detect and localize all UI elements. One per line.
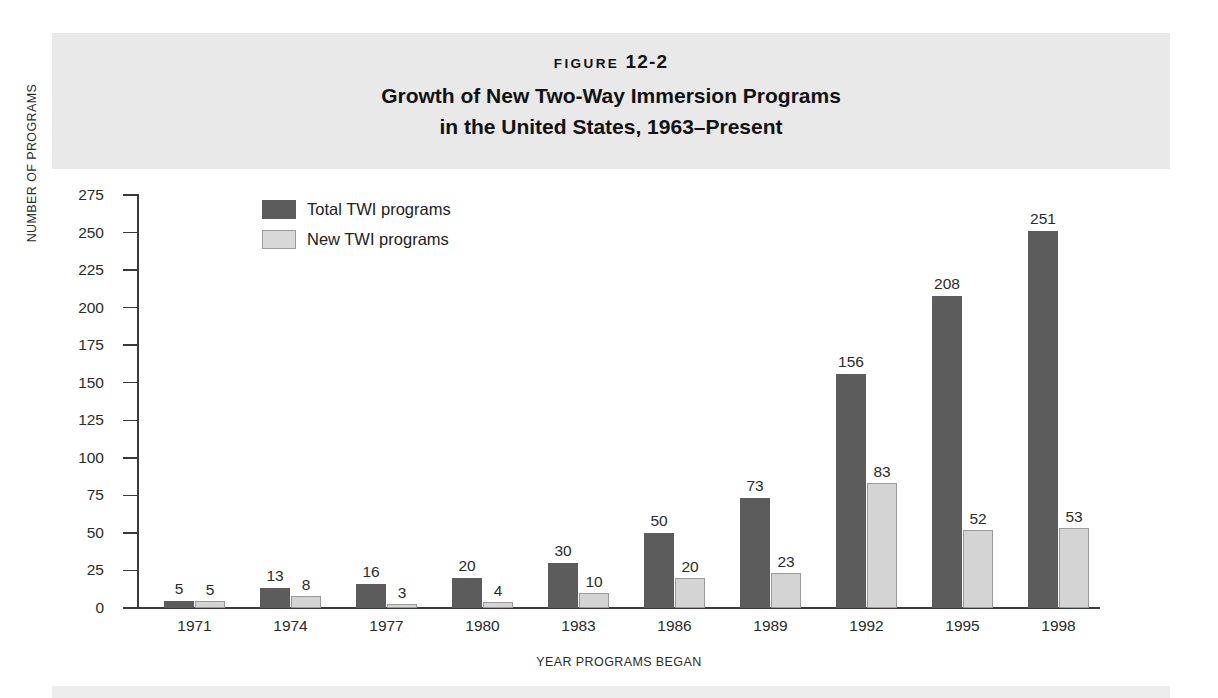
y-axis-tick-label: 200 [78, 299, 104, 317]
y-axis-tick-label: 75 [87, 486, 104, 504]
bar-value-label: 251 [1030, 210, 1056, 228]
plot-area: 55138163204301050207323156832085225153 [138, 195, 1100, 608]
bar-new[interactable]: 52 [963, 530, 993, 608]
bar-value-label: 13 [266, 567, 283, 585]
figure-footer-band [52, 686, 1170, 698]
bar-new[interactable]: 3 [387, 604, 417, 609]
y-axis-tick-label: 250 [78, 224, 104, 242]
bar-value-label: 83 [873, 463, 890, 481]
y-axis-tick-label: 225 [78, 261, 104, 279]
x-axis-tick-label: 1971 [177, 617, 211, 635]
x-axis-tick-labels: 1971197419771980198319861989199219951998 [138, 617, 1100, 643]
bar-value-label: 4 [494, 582, 503, 600]
legend-item-total: Total TWI programs [262, 196, 522, 222]
x-axis-tick-label: 1989 [753, 617, 787, 635]
bar-group: 55 [164, 195, 225, 608]
bar-total[interactable]: 251 [1028, 231, 1058, 608]
bar-group: 138 [260, 195, 321, 608]
y-axis-tick-label: 125 [78, 411, 104, 429]
bar-value-label: 52 [969, 510, 986, 528]
bar-value-label: 5 [175, 580, 184, 598]
bar-total[interactable]: 20 [452, 578, 482, 608]
bar-total[interactable]: 156 [836, 374, 866, 608]
x-axis-tick-label: 1995 [945, 617, 979, 635]
x-axis-tick-label: 1974 [273, 617, 307, 635]
y-axis-tick [123, 457, 137, 459]
y-axis-tick [123, 194, 137, 196]
y-axis-tick-labels: 0255075100125150175200225250275 [0, 195, 122, 608]
bar-total[interactable]: 30 [548, 563, 578, 608]
y-axis-tick [123, 307, 137, 309]
x-axis-tick-label: 1998 [1041, 617, 1075, 635]
bar-total[interactable]: 208 [932, 296, 962, 608]
bar-value-label: 208 [934, 275, 960, 293]
x-axis-tick-label: 1980 [465, 617, 499, 635]
chart-legend: Total TWI programs New TWI programs [262, 196, 522, 256]
bar-value-label: 10 [585, 573, 602, 591]
bar-value-label: 23 [777, 553, 794, 571]
bar-new[interactable]: 20 [675, 578, 705, 608]
y-axis-tick [123, 232, 137, 234]
bar-new[interactable]: 83 [867, 483, 897, 608]
bar-value-label: 16 [362, 563, 379, 581]
bar-group: 25153 [1028, 195, 1089, 608]
bar-new[interactable]: 53 [1059, 528, 1089, 608]
bar-group: 204 [452, 195, 513, 608]
y-axis-tick [123, 382, 137, 384]
bar-group: 15683 [836, 195, 897, 608]
bar-total[interactable]: 5 [164, 601, 194, 609]
y-axis-title: NUMBER OF PROGRAMS [25, 13, 39, 313]
y-axis-tick-label: 0 [95, 599, 104, 617]
x-axis-title: YEAR PROGRAMS BEGAN [138, 655, 1100, 669]
bar-group: 3010 [548, 195, 609, 608]
bar-new[interactable]: 23 [771, 573, 801, 608]
y-axis-tick [123, 495, 137, 497]
legend-swatch-total-icon [262, 200, 296, 219]
x-axis-tick-label: 1977 [369, 617, 403, 635]
bar-value-label: 5 [206, 581, 215, 599]
y-axis-tick-label: 25 [87, 561, 104, 579]
x-axis-tick-label: 1986 [657, 617, 691, 635]
y-axis-tick [123, 269, 137, 271]
y-axis-tick-label: 100 [78, 449, 104, 467]
x-axis-tick-label: 1983 [561, 617, 595, 635]
bar-new[interactable]: 10 [579, 593, 609, 608]
y-axis-tick-label: 50 [87, 524, 104, 542]
bar-group: 5020 [644, 195, 705, 608]
bar-total[interactable]: 73 [740, 498, 770, 608]
y-axis-tick [123, 420, 137, 422]
bar-value-label: 53 [1065, 508, 1082, 526]
bar-value-label: 156 [838, 353, 864, 371]
y-axis-tick-label: 275 [78, 186, 104, 204]
bar-total[interactable]: 13 [260, 588, 290, 608]
x-axis-tick-label: 1992 [849, 617, 883, 635]
legend-label-total: Total TWI programs [307, 200, 451, 219]
y-axis-tick-label: 175 [78, 336, 104, 354]
bar-total[interactable]: 16 [356, 584, 386, 608]
bar-total[interactable]: 50 [644, 533, 674, 608]
bar-value-label: 30 [554, 542, 571, 560]
y-axis-tick [123, 607, 137, 609]
bar-value-label: 73 [746, 477, 763, 495]
y-axis-tick-label: 150 [78, 374, 104, 392]
y-axis-tick [123, 532, 137, 534]
y-axis-tick [123, 344, 137, 346]
legend-item-new: New TWI programs [262, 226, 522, 252]
bar-new[interactable]: 5 [195, 601, 225, 609]
bar-value-label: 3 [398, 584, 407, 602]
y-axis-tick [123, 570, 137, 572]
bar-group: 7323 [740, 195, 801, 608]
legend-label-new: New TWI programs [307, 230, 449, 249]
legend-swatch-new-icon [262, 230, 296, 249]
bar-new[interactable]: 8 [291, 596, 321, 608]
bar-value-label: 8 [302, 576, 311, 594]
bar-new[interactable]: 4 [483, 602, 513, 608]
bar-group: 20852 [932, 195, 993, 608]
bar-value-label: 50 [650, 512, 667, 530]
bar-value-label: 20 [681, 558, 698, 576]
bar-value-label: 20 [458, 557, 475, 575]
bar-chart: 0255075100125150175200225250275 NUMBER O… [0, 0, 1218, 698]
bar-group: 163 [356, 195, 417, 608]
